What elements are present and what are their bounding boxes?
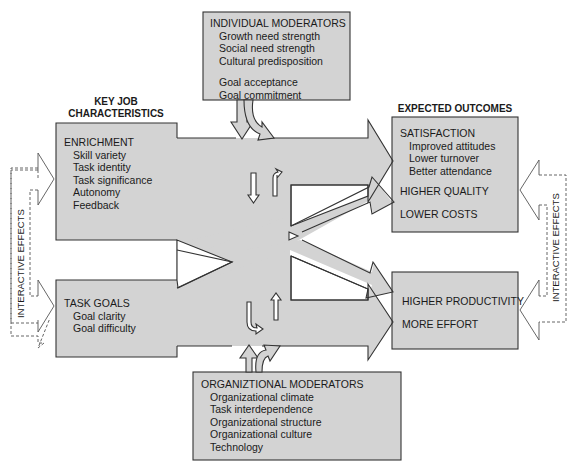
outcome-higher-quality: HIGHER QUALITY	[400, 185, 495, 198]
satisfaction-item: Better attendance	[400, 165, 495, 178]
moderator-item: Goal commitment	[210, 89, 346, 102]
moderator-item: Growth need strength	[210, 30, 346, 43]
outcome-more-effort: MORE EFFORT	[402, 318, 524, 331]
heading-line: KEY JOB	[56, 96, 176, 108]
individual-curved-arrow	[244, 100, 274, 140]
key-job-characteristics-heading: KEY JOB CHARACTERISTICS	[56, 96, 176, 120]
task-goals-title: TASK GOALS	[64, 297, 136, 310]
moderator-item: Goal acceptance	[210, 76, 346, 89]
individual-moderators-title: INDIVIDUAL MODERATORS	[210, 17, 346, 30]
enrichment-title: ENRICHMENT	[64, 136, 152, 149]
satisfaction-item: Improved attitudes	[400, 140, 495, 153]
enrichment-item: Feedback	[64, 199, 152, 212]
org-moderator-item: Task interdependence	[201, 403, 364, 416]
outcome-lower-costs: LOWER COSTS	[400, 208, 495, 221]
org-moderator-item: Organizational culture	[201, 428, 364, 441]
moderator-item: Social need strength	[210, 42, 346, 55]
enrichment-item: Task significance	[64, 174, 152, 187]
expected-outcomes-heading: EXPECTED OUTCOMES	[392, 103, 518, 115]
task-goals-item: Goal difficulty	[64, 322, 136, 335]
org-curved-arrow	[256, 345, 280, 372]
organizational-moderators-box: ORGANIZTIONAL MODERATORS Organizational …	[201, 378, 364, 454]
moderator-item: Cultural predisposition	[210, 55, 346, 68]
outcome-higher-productivity: HIGHER PRODUCTIVITY	[402, 295, 524, 308]
task-goals-box-text: TASK GOALS Goal clarity Goal difficulty	[64, 297, 136, 335]
enrichment-item: Task identity	[64, 161, 152, 174]
productivity-box-text: HIGHER PRODUCTIVITY MORE EFFORT	[402, 295, 524, 330]
enrichment-box-text: ENRICHMENT Skill variety Task identity T…	[64, 136, 152, 212]
org-moderator-item: Organizational climate	[201, 391, 364, 404]
heading-line: CHARACTERISTICS	[56, 108, 176, 120]
enrichment-item: Autonomy	[64, 186, 152, 199]
left-interactive-effects-label: INTERACTIVE EFFECTS	[15, 209, 26, 318]
individual-moderators-box: INDIVIDUAL MODERATORS Growth need streng…	[210, 17, 346, 102]
right-interactive-effects-label: INTERACTIVE EFFECTS	[550, 193, 561, 302]
satisfaction-title: SATISFACTION	[400, 127, 495, 140]
org-moderator-item: Technology	[201, 441, 364, 454]
org-moderator-item: Organizational structure	[201, 416, 364, 429]
task-goals-item: Goal clarity	[64, 310, 136, 323]
satisfaction-item: Lower turnover	[400, 152, 495, 165]
satisfaction-box-text: SATISFACTION Improved attitudes Lower tu…	[400, 127, 495, 221]
organizational-moderators-title: ORGANIZTIONAL MODERATORS	[201, 378, 364, 391]
enrichment-item: Skill variety	[64, 149, 152, 162]
